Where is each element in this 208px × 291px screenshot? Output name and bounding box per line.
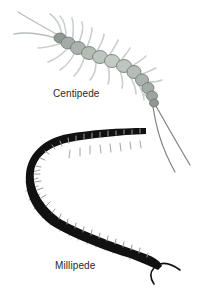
millipede-drawing [26,128,180,284]
millipede-label: Millipede [55,260,95,271]
centipede-millipede-illustration [0,0,208,291]
illustration-canvas: Centipede Millipede [0,0,208,291]
centipede-label: Centipede [53,88,100,99]
